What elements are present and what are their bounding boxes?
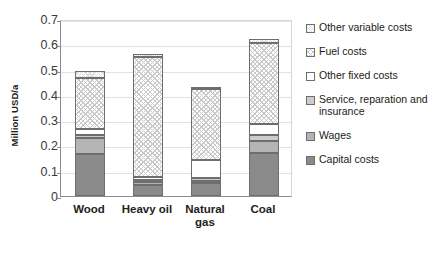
legend-item-label: Other fixed costs xyxy=(319,70,398,82)
legend-swatch-icon xyxy=(306,48,315,57)
x-axis-tick-label: Coal xyxy=(232,203,294,216)
bar-segment xyxy=(191,160,221,178)
legend-swatch-icon xyxy=(306,72,315,81)
bar-segment xyxy=(133,57,163,177)
x-axis-label-line: Heavy oil xyxy=(116,203,178,216)
y-axis-tick xyxy=(57,97,61,98)
bar-segment xyxy=(133,54,163,57)
legend-item-label: Fuel costs xyxy=(319,46,367,58)
legend-item-label: Other variable costs xyxy=(319,22,412,34)
bar-segment xyxy=(133,182,163,185)
y-axis-tick-label: 0.1 xyxy=(24,166,58,179)
bar-segment xyxy=(249,124,279,134)
bar-segment xyxy=(75,78,105,129)
bar-heavy-oil xyxy=(133,19,163,196)
bar-coal xyxy=(249,19,279,196)
x-axis-label-line: Wood xyxy=(58,203,120,216)
stacked-bar-chart: Million USD/a 0.70.60.50.40.30.20.10 Woo… xyxy=(0,0,445,257)
y-axis-tick-label: 0.3 xyxy=(24,115,58,128)
legend-item[interactable]: Wages xyxy=(306,130,442,142)
bar-segment xyxy=(75,135,105,138)
y-axis-tick xyxy=(57,72,61,73)
x-axis-tick-label: Naturalgas xyxy=(174,203,236,228)
bar-segment xyxy=(249,141,279,153)
bar-segment xyxy=(249,135,279,141)
y-axis-tick xyxy=(57,173,61,174)
bar-segment xyxy=(75,129,105,135)
x-axis-tick-label: Heavy oil xyxy=(116,203,178,216)
legend-item[interactable]: Service, reparation andinsurance xyxy=(306,94,442,117)
bar-segment xyxy=(191,87,221,89)
bar-segment xyxy=(133,180,163,183)
y-axis-tick xyxy=(57,46,61,47)
legend-swatch-icon xyxy=(306,156,315,165)
legend-item[interactable]: Other fixed costs xyxy=(306,70,442,82)
bar-natural-gas xyxy=(191,19,221,196)
legend-swatch-icon xyxy=(306,96,315,105)
legend-item-label: Wages xyxy=(319,130,351,142)
y-axis-tick-label: 0.6 xyxy=(24,39,58,52)
y-axis-tick-labels: 0.70.60.50.40.30.20.10 xyxy=(18,0,58,257)
y-axis-tick-label: 0.2 xyxy=(24,140,58,153)
legend-item[interactable]: Capital costs xyxy=(306,154,442,166)
x-axis-label-line: Coal xyxy=(232,203,294,216)
plot-area xyxy=(60,20,292,197)
legend-item[interactable]: Other variable costs xyxy=(306,22,442,34)
y-axis-tick-label: 0 xyxy=(24,191,58,204)
y-axis-tick xyxy=(57,122,61,123)
bar-segment xyxy=(191,181,221,183)
y-axis-tick-label: 0.5 xyxy=(24,65,58,78)
bar-segment xyxy=(249,153,279,196)
bar-segment xyxy=(191,183,221,196)
bar-segment xyxy=(75,71,105,79)
legend-item-label: Capital costs xyxy=(319,154,379,166)
bar-segment xyxy=(75,138,105,154)
legend-item-label: Service, reparation andinsurance xyxy=(319,94,428,117)
x-axis-label-line: gas xyxy=(174,216,236,229)
y-axis-tick-label: 0.4 xyxy=(24,90,58,103)
x-axis-label-line: Natural xyxy=(174,203,236,216)
legend-swatch-icon xyxy=(306,132,315,141)
y-axis-tick-label: 0.7 xyxy=(24,14,58,27)
bar-segment xyxy=(133,185,163,196)
y-axis-tick xyxy=(57,147,61,148)
legend-item[interactable]: Fuel costs xyxy=(306,46,442,58)
legend-swatch-icon xyxy=(306,24,315,33)
x-axis-tick-label: Wood xyxy=(58,203,120,216)
bar-wood xyxy=(75,19,105,196)
bar-segment xyxy=(191,178,221,181)
bar-segment xyxy=(191,89,221,161)
bar-segment xyxy=(249,43,279,125)
bar-segment xyxy=(75,154,105,196)
bar-segment xyxy=(133,177,163,180)
legend-item-label-line2: insurance xyxy=(319,105,365,117)
y-axis-tick xyxy=(57,198,61,199)
chart-legend: Other variable costsFuel costsOther fixe… xyxy=(306,22,442,178)
y-axis-tick xyxy=(57,21,61,22)
bar-segment xyxy=(249,39,279,43)
